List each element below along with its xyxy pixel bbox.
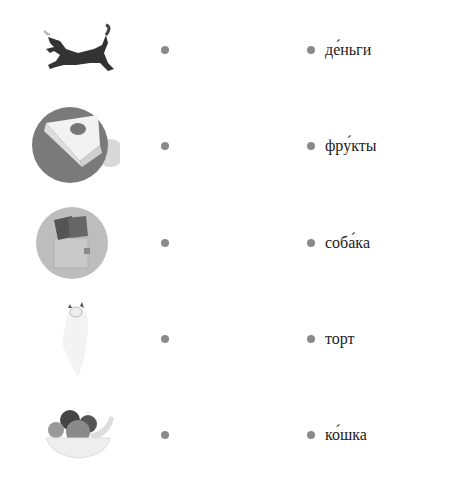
word-label: торт bbox=[325, 329, 355, 349]
money-wallet-icon bbox=[20, 198, 120, 288]
word-label: ко́шка bbox=[325, 425, 367, 445]
dog-icon bbox=[20, 5, 120, 95]
left-match-dot[interactable] bbox=[161, 46, 169, 54]
match-row: де́ньги bbox=[0, 2, 463, 98]
left-match-dot[interactable] bbox=[161, 239, 169, 247]
left-match-dot[interactable] bbox=[161, 431, 169, 439]
word-label: де́ньги bbox=[325, 40, 371, 60]
cake-icon bbox=[20, 101, 120, 191]
word-label: фру́кты bbox=[325, 136, 376, 156]
word-label: соба́ка bbox=[325, 233, 370, 253]
right-match-dot[interactable] bbox=[307, 46, 315, 54]
right-match-dot[interactable] bbox=[307, 239, 315, 247]
match-row: ко́шка bbox=[0, 387, 463, 478]
match-row: торт bbox=[0, 291, 463, 387]
fruit-bowl-icon bbox=[20, 390, 120, 478]
match-row: соба́ка bbox=[0, 195, 463, 291]
match-row: фру́кты bbox=[0, 98, 463, 194]
left-match-dot[interactable] bbox=[161, 335, 169, 343]
right-match-dot[interactable] bbox=[307, 142, 315, 150]
cat-icon bbox=[20, 294, 120, 384]
left-match-dot[interactable] bbox=[161, 142, 169, 150]
right-match-dot[interactable] bbox=[307, 431, 315, 439]
right-match-dot[interactable] bbox=[307, 335, 315, 343]
